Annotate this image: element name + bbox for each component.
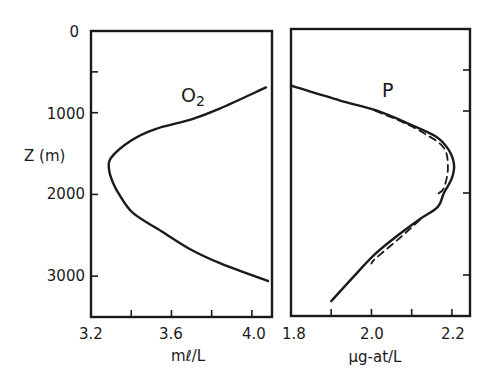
y-tick-label-3000: 3000 — [47, 267, 85, 285]
y-tick-label-2000: 2000 — [47, 185, 85, 203]
chart-svg: 0 1000 2000 3000 Z (m) 3.2 3.6 4.0 mℓ/L … — [0, 0, 495, 383]
dashed-profile-curve — [376, 111, 448, 194]
o2-x-axis-unit: mℓ/L — [171, 347, 206, 365]
o2-plot-frame — [91, 31, 272, 317]
solid-profile-curve — [109, 87, 268, 281]
p-x-axis-unit: µg-at/L — [349, 348, 403, 366]
p-x-tick-label-2.2: 2.2 — [441, 325, 465, 343]
o2-x-tick-label-4.0: 4.0 — [242, 325, 266, 343]
solid-profile-curve — [291, 86, 454, 302]
o2-curves — [109, 87, 268, 281]
p-plot-frame — [291, 29, 470, 316]
y-tick-label-1000: 1000 — [47, 105, 85, 123]
p-x-tick-label-1.8: 1.8 — [282, 325, 306, 343]
dashed-profile-curve — [371, 220, 419, 263]
phosphate-panel: 1.8 2.0 2.2 µg-at/L P — [282, 29, 470, 366]
o2-x-tick-label-3.2: 3.2 — [79, 325, 103, 343]
o2-series-label: O2 — [181, 84, 205, 109]
y-axis-title: Z (m) — [24, 147, 65, 165]
p-x-tick-label-2.0: 2.0 — [360, 325, 384, 343]
p-curves — [291, 86, 454, 302]
p-series-label: P — [382, 79, 393, 101]
depth-profile-figure: 0 1000 2000 3000 Z (m) 3.2 3.6 4.0 mℓ/L … — [0, 0, 495, 383]
o2-panel: 0 1000 2000 3000 Z (m) 3.2 3.6 4.0 mℓ/L … — [24, 23, 272, 365]
y-tick-label-0: 0 — [69, 23, 79, 41]
o2-x-tick-label-3.6: 3.6 — [159, 325, 183, 343]
